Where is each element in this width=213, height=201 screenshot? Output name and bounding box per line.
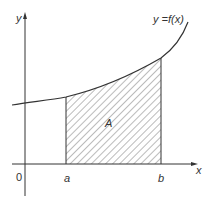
lower-bound-label: a — [64, 172, 70, 184]
origin-label: 0 — [16, 171, 22, 183]
y-axis — [23, 12, 27, 196]
y-axis-label: y — [15, 12, 23, 24]
upper-bound-label: b — [158, 172, 164, 184]
area-region — [66, 40, 161, 164]
area-label: A — [104, 117, 112, 129]
y-axis-arrow-icon — [23, 12, 27, 19]
x-axis-label: x — [195, 164, 202, 176]
integral-area-diagram: y x 0 a b A y =f(x) — [0, 0, 213, 201]
curve-label: y =f(x) — [152, 13, 184, 25]
